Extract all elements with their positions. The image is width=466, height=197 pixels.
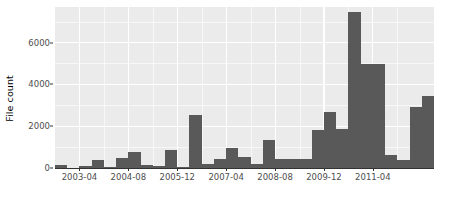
bar [214,159,226,168]
x-axis-tick-label: 2008-08 [257,173,293,182]
x-axis-tick-mark [324,168,325,171]
histogram-chart: File count 0200040006000 2003-042004-082… [0,0,466,197]
gridline-minor-vertical [104,7,105,168]
gridline-minor-vertical [397,7,398,168]
gridline-minor-vertical [202,7,203,168]
x-axis-tick-label: 2004-08 [111,173,147,182]
bar [287,159,299,168]
x-axis-tick-mark [128,168,129,171]
bar [361,64,373,168]
x-axis-tick-label: 2007-04 [208,173,244,182]
y-axis-tick-labels: 0200040006000 [14,0,50,197]
x-axis-tick-mark [177,168,178,171]
y-axis-tick-mark [50,168,53,169]
x-axis-tick-label: 2009-12 [306,173,342,182]
gridline-major-horizontal [55,42,434,43]
y-axis-tick-mark [50,42,53,43]
bar [336,129,348,168]
bar [165,150,177,168]
bar [189,115,201,168]
plot-panel [55,7,434,168]
bar [92,160,104,168]
x-axis-tick-label: 2011-04 [355,173,391,182]
gridline-major-vertical [79,7,80,168]
y-axis-tick-label: 4000 [28,80,50,89]
x-axis-tick-label: 2003-04 [62,173,98,182]
gridline-minor-vertical [153,7,154,168]
bar [300,159,312,168]
bar [263,140,275,168]
bar [226,148,238,168]
bar [422,96,434,168]
gridline-minor-vertical [300,7,301,168]
bar [410,107,422,168]
y-axis-tick-mark [50,126,53,127]
bar [385,155,397,168]
x-axis-tick-mark [373,168,374,171]
y-axis-title-text: File count [4,75,15,122]
bar [312,130,324,168]
gridline-major-vertical [226,7,227,168]
bar [397,160,409,168]
x-axis-tick-mark [275,168,276,171]
y-axis-tick-mark [50,84,53,85]
bar [348,12,360,168]
bar [324,112,336,168]
bar [128,152,140,168]
bar [238,157,250,168]
gridline-major-vertical [128,7,129,168]
x-axis-tick-label: 2005-12 [159,173,195,182]
x-axis-tick-mark [226,168,227,171]
gridline-minor-horizontal [55,22,434,23]
bar [116,158,128,168]
gridline-minor-vertical [251,7,252,168]
x-axis-line [55,168,434,169]
gridline-major-vertical [177,7,178,168]
x-axis-tick-mark [79,168,80,171]
y-axis-tick-label: 6000 [28,38,50,47]
bar [275,159,287,168]
y-axis-tick-label: 2000 [28,122,50,131]
bar [373,64,385,168]
